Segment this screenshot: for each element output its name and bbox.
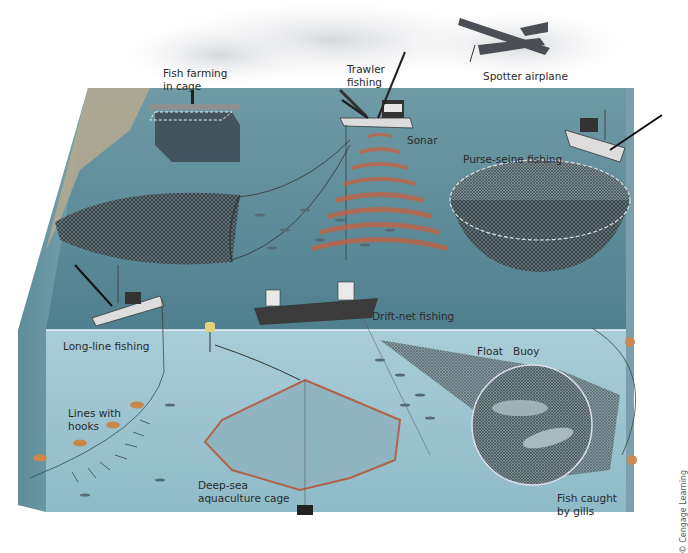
label-fish-caught-by-gills: Fish caught by gills xyxy=(557,492,617,517)
label-lines-with-hooks: Lines with hooks xyxy=(68,407,121,432)
label-buoy: Buoy xyxy=(513,345,540,358)
label-float: Float xyxy=(477,345,503,358)
label-long-line-fishing: Long-line fishing xyxy=(63,340,149,353)
label-deep-sea-cage: Deep-sea aquaculture cage xyxy=(198,479,290,504)
credit-text: © Cengage Learning xyxy=(679,470,688,553)
label-trawler-fishing: Trawler fishing xyxy=(347,63,385,88)
label-fish-farming: Fish farming in cage xyxy=(163,67,227,92)
label-spotter-airplane: Spotter airplane xyxy=(483,70,568,83)
label-sonar: Sonar xyxy=(407,134,438,147)
label-drift-net-fishing: Drift-net fishing xyxy=(372,310,454,323)
label-purse-seine-fishing: Purse-seine fishing xyxy=(463,153,562,166)
